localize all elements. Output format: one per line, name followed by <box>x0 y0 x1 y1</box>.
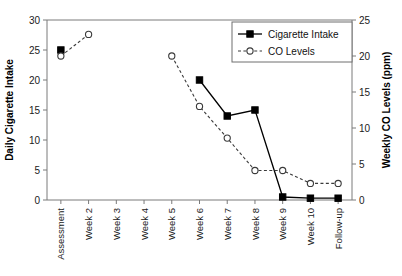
y2-axis-tick-label: 15 <box>359 87 371 98</box>
chart-container: 0510152025300510152025AssessmentWeek 2We… <box>0 0 402 276</box>
y-axis-title: Daily Cigarette Intake <box>4 59 15 161</box>
dual-axis-line-chart: 0510152025300510152025AssessmentWeek 2We… <box>0 0 402 276</box>
data-point-co-levels <box>335 180 341 186</box>
y2-axis-title: Weekly CO Levels (ppm) <box>381 52 392 169</box>
x-axis-category-label: Assessment <box>55 208 66 260</box>
data-point-co-levels <box>85 31 91 37</box>
y2-axis-tick-label: 10 <box>359 123 371 134</box>
data-point-cigarette-intake <box>279 194 285 200</box>
x-axis-category-label: Week 3 <box>111 208 122 240</box>
x-axis-category-label: Week 10 <box>305 208 316 245</box>
x-axis-category-label: Follow-up <box>333 208 344 249</box>
data-point-co-levels <box>196 103 202 109</box>
y-axis-tick-label: 15 <box>29 105 41 116</box>
y2-axis-tick-label: 0 <box>359 195 365 206</box>
data-point-cigarette-intake <box>196 77 202 83</box>
y-axis-tick-label: 20 <box>29 75 41 86</box>
data-point-cigarette-intake <box>307 195 313 201</box>
x-axis-category-label: Week 2 <box>83 208 94 240</box>
legend-marker-square-icon <box>247 31 253 37</box>
y2-axis-tick-label: 25 <box>359 15 371 26</box>
x-axis-category-label: Week 5 <box>166 208 177 240</box>
data-point-cigarette-intake <box>335 195 341 201</box>
legend-marker-circle-icon <box>247 48 253 54</box>
data-point-cigarette-intake <box>58 47 64 53</box>
y-axis-tick-label: 10 <box>29 135 41 146</box>
x-axis-category-label: Week 6 <box>194 208 205 240</box>
data-point-cigarette-intake <box>252 107 258 113</box>
y-axis-tick-label: 0 <box>34 195 40 206</box>
series-line-co-levels <box>172 56 338 183</box>
x-axis-category-label: Week 4 <box>139 208 150 240</box>
y-axis-tick-label: 25 <box>29 45 41 56</box>
x-axis-category-label: Week 7 <box>222 208 233 240</box>
data-point-co-levels <box>58 53 64 59</box>
y-axis-tick-label: 5 <box>34 165 40 176</box>
series-line-co-levels <box>61 34 89 56</box>
y2-axis-tick-label: 20 <box>359 51 371 62</box>
data-point-co-levels <box>307 180 313 186</box>
y2-axis-tick-label: 5 <box>359 159 365 170</box>
data-point-cigarette-intake <box>224 113 230 119</box>
data-point-co-levels <box>280 167 286 173</box>
data-point-co-levels <box>224 135 230 141</box>
series-line-cigarette-intake <box>200 80 339 198</box>
data-point-co-levels <box>169 53 175 59</box>
x-axis-category-label: Week 8 <box>250 208 261 240</box>
legend-label-cigarette-intake: Cigarette Intake <box>268 29 339 40</box>
x-axis-category-label: Week 9 <box>277 208 288 240</box>
data-point-co-levels <box>252 167 258 173</box>
legend-label-co-levels: CO Levels <box>268 46 315 57</box>
y-axis-tick-label: 30 <box>29 15 41 26</box>
